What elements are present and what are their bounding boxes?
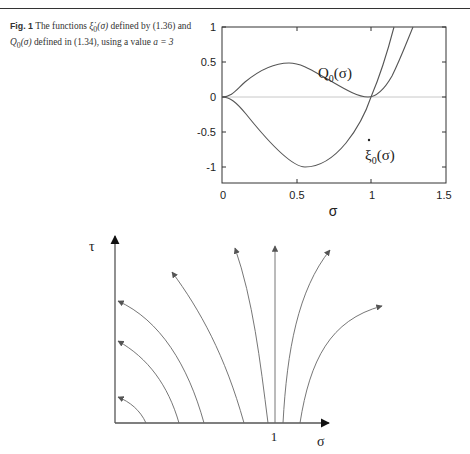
one-label: 1 — [271, 429, 278, 444]
y-tick-label: 0.5 — [201, 56, 216, 68]
characteristic-curve — [118, 397, 146, 423]
y-tick-label: -1 — [206, 161, 216, 173]
characteristics-diagram: τ σ 1 — [89, 236, 382, 449]
characteristic-curve — [283, 250, 330, 423]
xi-dot — [368, 139, 370, 141]
y-tick-label: 0 — [210, 91, 216, 103]
plot-frame — [222, 27, 446, 183]
x-tick-label: 1 — [369, 189, 375, 201]
sigma-label: σ — [317, 434, 325, 449]
xi0-label: ξ0(σ) — [365, 147, 395, 166]
figure-graphics: 1 0.5 0 -0.5 -1 0 0.5 1 1.5 σ Q0(σ) ξ0(σ… — [0, 0, 470, 454]
x-ticks — [297, 27, 371, 183]
y-tick-label: 1 — [210, 21, 216, 33]
characteristic-curve — [235, 248, 268, 423]
x-tick-label: 0.5 — [289, 189, 304, 201]
x-tick-label: 1.5 — [436, 189, 451, 201]
x-axis-label: σ — [329, 203, 338, 219]
tau-label: τ — [89, 239, 95, 254]
x-tick-label: 0 — [220, 189, 226, 201]
characteristic-curve — [300, 306, 382, 423]
characteristic-curve — [172, 272, 244, 423]
y-tick-label: -0.5 — [197, 126, 216, 138]
q0-label: Q0(σ) — [318, 65, 352, 84]
characteristic-curve — [118, 341, 179, 423]
line-chart: 1 0.5 0 -0.5 -1 0 0.5 1 1.5 σ Q0(σ) ξ0(σ… — [197, 21, 452, 219]
